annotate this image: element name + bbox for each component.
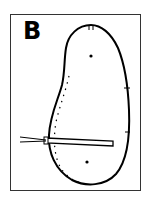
needle bbox=[20, 137, 113, 146]
bean-diagram bbox=[0, 0, 153, 200]
upper-dot bbox=[89, 54, 92, 57]
lower-dot bbox=[85, 160, 88, 163]
bean-outline bbox=[49, 25, 129, 184]
